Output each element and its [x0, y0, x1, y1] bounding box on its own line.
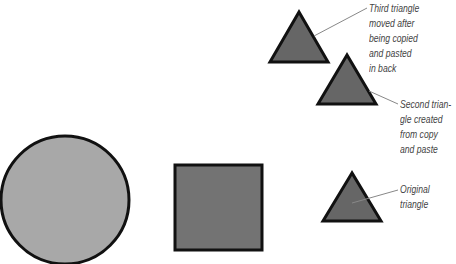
annotation-line: in back [369, 61, 419, 76]
annotation-line: from copy [400, 127, 451, 142]
annotation-line: and pasted [369, 46, 419, 61]
annotation-line: triangle [400, 197, 430, 212]
leader-line-third [314, 8, 367, 36]
annotation-original-triangle: Original triangle [400, 182, 430, 212]
annotation-line: Third triangle [369, 1, 419, 16]
annotation-line: being copied [369, 31, 419, 46]
annotation-line: Original [400, 182, 430, 197]
annotation-third-triangle: Third triangle moved after being copied … [369, 1, 419, 76]
annotation-line: moved after [369, 16, 419, 31]
annotation-line: and paste [400, 142, 451, 157]
annotation-line: gle created [400, 112, 451, 127]
square-shape[interactable] [175, 165, 262, 250]
annotation-line: Second trian- [400, 97, 451, 112]
third-triangle[interactable] [270, 12, 328, 62]
circle-shape[interactable] [1, 136, 129, 264]
annotation-second-triangle: Second trian- gle created from copy and … [400, 97, 451, 157]
